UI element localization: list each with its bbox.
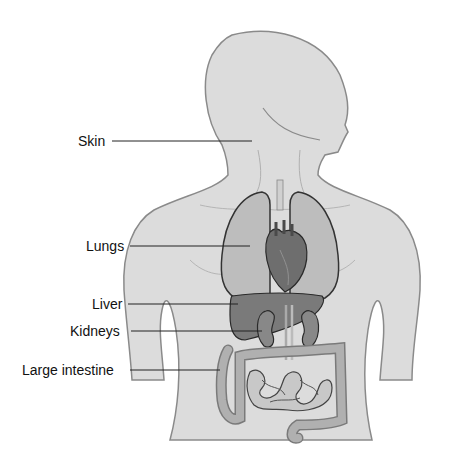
label-skin: Skin (78, 133, 105, 149)
label-kidneys: Kidneys (70, 323, 120, 339)
anatomy-figure: Skin Lungs Liver Kidneys Large intestine (0, 0, 453, 465)
label-large-intestine: Large intestine (22, 362, 114, 378)
label-liver: Liver (92, 296, 122, 312)
body-illustration (0, 0, 453, 465)
label-lungs: Lungs (86, 238, 124, 254)
